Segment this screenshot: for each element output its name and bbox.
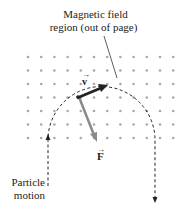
field-region-label-line1: Magnetic field: [0, 8, 183, 21]
field-dot: [159, 110, 162, 113]
field-dot: [66, 137, 69, 140]
field-dot: [172, 96, 175, 99]
field-dot: [80, 137, 83, 140]
field-dot: [106, 123, 109, 126]
field-dot: [66, 56, 69, 59]
velocity-label: → v: [82, 75, 87, 88]
field-dot: [106, 137, 109, 140]
field-dot: [93, 56, 96, 59]
field-dot: [27, 96, 30, 99]
field-dot: [53, 96, 56, 99]
field-dot: [106, 69, 109, 72]
field-dot: [132, 56, 135, 59]
field-dot: [146, 56, 149, 59]
field-dot: [146, 96, 149, 99]
field-dot: [172, 110, 175, 113]
field-dot: [172, 83, 175, 86]
field-dot: [80, 123, 83, 126]
field-dot: [132, 69, 135, 72]
field-dot: [40, 56, 43, 59]
field-dot: [40, 96, 43, 99]
field-dot: [53, 123, 56, 126]
particle-motion-line2: motion: [0, 189, 45, 202]
field-dot: [106, 56, 109, 59]
field-dot: [66, 110, 69, 113]
field-dot: [93, 96, 96, 99]
field-dot: [159, 56, 162, 59]
field-dot: [93, 69, 96, 72]
field-region-label: Magnetic field region (out of page): [0, 8, 183, 34]
force-label: → F: [97, 150, 104, 163]
particle: [76, 95, 80, 99]
field-region-label-line2: region (out of page): [0, 21, 183, 34]
field-dot: [172, 137, 175, 140]
field-dot: [40, 83, 43, 86]
field-dot: [27, 56, 30, 59]
field-dot: [66, 83, 69, 86]
field-dot: [53, 69, 56, 72]
velocity-vector: [77, 88, 101, 98]
field-dot: [159, 137, 162, 140]
field-dot: [159, 69, 162, 72]
motion-arrowhead-up: [46, 134, 51, 140]
field-dot: [27, 137, 30, 140]
field-dot: [172, 69, 175, 72]
field-dot: [40, 123, 43, 126]
field-dot: [27, 83, 30, 86]
field-dot: [53, 137, 56, 140]
field-dot-grid: [27, 56, 175, 140]
field-dot: [172, 56, 175, 59]
field-dot: [132, 123, 135, 126]
velocity-arrowhead: [98, 84, 108, 92]
field-dot: [119, 96, 122, 99]
field-dot: [80, 110, 83, 113]
force-vector: [79, 97, 94, 135]
particle-motion-line1: Particle: [0, 176, 45, 189]
field-dot: [80, 56, 83, 59]
field-dot: [66, 69, 69, 72]
field-dot: [146, 83, 149, 86]
motion-arrowhead-down: [153, 197, 158, 203]
field-dot: [119, 69, 122, 72]
field-dot: [106, 96, 109, 99]
field-dot: [159, 123, 162, 126]
field-dot: [40, 110, 43, 113]
field-dot: [93, 83, 96, 86]
field-dot: [132, 137, 135, 140]
field-dot: [146, 123, 149, 126]
field-dot: [119, 83, 122, 86]
field-dot: [159, 83, 162, 86]
field-dot: [40, 69, 43, 72]
particle-motion-label: Particle motion: [0, 176, 45, 202]
field-dot: [172, 123, 175, 126]
field-dot: [146, 69, 149, 72]
field-dot: [53, 83, 56, 86]
field-dot: [119, 123, 122, 126]
force-arrowhead: [90, 132, 97, 142]
field-dot: [66, 123, 69, 126]
field-dot: [132, 83, 135, 86]
field-dot: [93, 110, 96, 113]
field-dot: [119, 137, 122, 140]
field-dot: [119, 56, 122, 59]
field-dot: [53, 56, 56, 59]
field-dot: [53, 110, 56, 113]
field-dot: [119, 110, 122, 113]
field-dot: [106, 110, 109, 113]
field-dot: [40, 137, 43, 140]
field-dot: [27, 69, 30, 72]
field-dot: [93, 123, 96, 126]
field-dot: [27, 123, 30, 126]
field-dot: [27, 110, 30, 113]
field-dot: [146, 137, 149, 140]
field-dot: [159, 96, 162, 99]
field-dot: [132, 110, 135, 113]
